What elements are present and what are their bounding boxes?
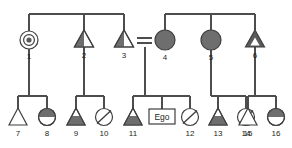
circle-fill-top-8 bbox=[38, 108, 56, 117]
carrier-dot-1 bbox=[26, 37, 31, 42]
ego-label: Ego bbox=[154, 112, 169, 122]
individual-8: 8 bbox=[38, 108, 56, 138]
individual-16: 16 bbox=[267, 108, 285, 138]
label-12: 12 bbox=[186, 129, 195, 138]
label-2: 2 bbox=[82, 51, 87, 60]
label-5: 5 bbox=[209, 53, 214, 62]
pedigree-chart: 1 2 3 4 5 6 bbox=[0, 0, 292, 148]
individual-5: 5 bbox=[201, 30, 221, 62]
label-3: 3 bbox=[122, 51, 127, 60]
label-1: 1 bbox=[27, 52, 32, 61]
individual-2: 2 bbox=[70, 28, 94, 60]
label-4: 4 bbox=[163, 53, 168, 62]
individual-1: 1 bbox=[20, 31, 38, 61]
label-9: 9 bbox=[74, 129, 79, 138]
individual-10: 10 bbox=[96, 109, 113, 139]
label-16: 16 bbox=[272, 129, 281, 138]
individual-3: 3 bbox=[110, 28, 134, 60]
label-8: 8 bbox=[45, 129, 50, 138]
triangle-symbol-7 bbox=[9, 108, 27, 125]
pedigree-canvas: 1 2 3 4 5 6 bbox=[0, 0, 292, 148]
label-6: 6 bbox=[253, 51, 258, 60]
individual-13: 13 bbox=[208, 108, 228, 138]
sibship-connector-group-left bbox=[29, 14, 124, 31]
individual-9: 9 bbox=[66, 108, 86, 138]
label-13: 13 bbox=[214, 129, 223, 138]
mating-symbol-3-4 bbox=[137, 38, 152, 43]
individual-11: 11 bbox=[123, 108, 143, 138]
sibship-connector-group-right bbox=[165, 14, 255, 30]
circle-symbol-5 bbox=[201, 30, 221, 50]
individual-6: 6 bbox=[246, 30, 265, 60]
individual-4: 4 bbox=[155, 30, 175, 62]
individual-12: 12 bbox=[182, 109, 199, 139]
circle-symbol-4 bbox=[155, 30, 175, 50]
label-11: 11 bbox=[129, 129, 138, 138]
individual-7: 7 bbox=[9, 108, 27, 138]
generation-descent-lines bbox=[18, 47, 276, 109]
circle-fill-top-16 bbox=[267, 108, 285, 117]
label-15: 15 bbox=[244, 129, 253, 138]
label-10: 10 bbox=[100, 129, 109, 138]
label-7: 7 bbox=[16, 129, 21, 138]
ego-box: Ego bbox=[149, 109, 175, 124]
